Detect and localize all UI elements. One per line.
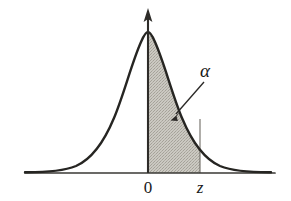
alpha-leader-line bbox=[176, 82, 204, 114]
z-tick-label: z bbox=[196, 178, 204, 197]
alpha-label: α bbox=[200, 60, 211, 81]
origin-tick-label: 0 bbox=[144, 178, 153, 197]
normal-curve-svg: 0 z α bbox=[0, 0, 291, 201]
normal-curve-figure: 0 z α bbox=[0, 0, 291, 201]
